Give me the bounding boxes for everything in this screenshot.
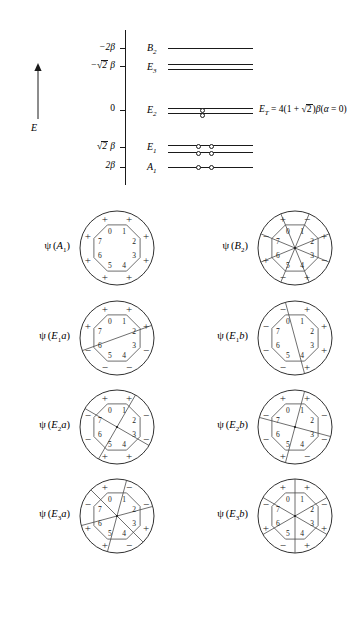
vertex-index-2: 2: [132, 237, 136, 246]
lobe-sign-4: +: [304, 539, 310, 551]
orbital-diagram-E1a: 01234567+++−−−−+: [72, 293, 162, 383]
energy-axis-label: E: [31, 122, 37, 133]
energy-level-diagram: −2β −√2 β 0 √2 β 2β E B2 E3 E2 E1: [0, 0, 355, 190]
lobe-sign-5: +: [102, 271, 108, 283]
orbital-svg-E3a: 01234567+−−+−++−: [72, 471, 162, 561]
level-label-B2: B2: [147, 42, 157, 56]
vertex-index-3: 3: [132, 430, 136, 439]
vertex-index-6: 6: [276, 341, 280, 350]
orbital-label-E2a: ψ (E2a): [14, 419, 70, 433]
vertex-index-6: 6: [276, 519, 280, 528]
vertex-index-6: 6: [98, 430, 102, 439]
lobe-sign-3: +: [143, 522, 149, 534]
vertex-index-6: 6: [276, 430, 280, 439]
vertex-index-4: 4: [300, 351, 304, 360]
vertex-index-4: 4: [122, 261, 126, 270]
vertex-index-0: 0: [286, 495, 290, 504]
orbital-svg-E1a: 01234567+++−−−−+: [72, 293, 162, 383]
lobe-sign-2: +: [143, 230, 149, 242]
orbital-svg-E2a: 01234567++−−++−−: [72, 382, 162, 472]
orbital-diagram-E3b: 01234567++−++−+−: [250, 471, 340, 561]
vertex-index-7: 7: [276, 416, 280, 425]
lobe-sign-2: +: [321, 230, 327, 242]
vertex-index-2: 2: [310, 505, 314, 514]
axis-tick-label-minus-sqrt2-beta: −√2 β: [55, 60, 115, 71]
vertex-index-7: 7: [98, 237, 102, 246]
vertex-index-1: 1: [122, 406, 126, 415]
vertex-index-7: 7: [98, 327, 102, 336]
vertex-index-4: 4: [300, 440, 304, 449]
vertex-index-0: 0: [108, 406, 112, 415]
lobe-sign-5: −: [280, 271, 286, 283]
lobe-sign-3: +: [321, 522, 327, 534]
vertex-index-1: 1: [300, 317, 304, 326]
vertex-index-2: 2: [310, 237, 314, 246]
lobe-sign-0: −: [280, 303, 286, 315]
lobe-sign-7: +: [85, 320, 91, 332]
lobe-sign-2: −: [321, 498, 327, 510]
orbital-label-E2b: ψ (E2b): [192, 419, 248, 433]
axis-tick-label-minus2beta: −2β: [60, 43, 115, 53]
orbital-label-A1: ψ (A1): [20, 240, 70, 254]
lobe-sign-4: +: [304, 271, 310, 283]
lobe-sign-6: +: [85, 522, 91, 534]
axis-tick-sqrt2-beta: [120, 147, 126, 148]
lobe-sign-5: +: [280, 450, 286, 462]
vertex-index-0: 0: [108, 495, 112, 504]
lobe-sign-2: +: [143, 320, 149, 332]
vertex-index-0: 0: [108, 317, 112, 326]
vertex-index-2: 2: [132, 416, 136, 425]
lobe-sign-5: +: [102, 539, 108, 551]
huckel-mo-figure: −2β −√2 β 0 √2 β 2β E B2 E3 E2 E1: [0, 0, 355, 623]
lobe-sign-7: −: [263, 498, 269, 510]
lobe-sign-7: −: [263, 409, 269, 421]
nodal-line-E1b-0: [285, 302, 304, 373]
vertex-index-6: 6: [98, 519, 102, 528]
lobe-sign-5: −: [280, 361, 286, 373]
vertex-index-5: 5: [108, 440, 112, 449]
lobe-sign-0: +: [102, 303, 108, 315]
lobe-sign-4: −: [126, 361, 132, 373]
orbital-diagram-E2b: 01234567++−−−+−−: [250, 382, 340, 472]
vertex-index-3: 3: [310, 430, 314, 439]
orbital-label-E3b: ψ (E3b): [192, 508, 248, 522]
energy-direction-arrow: [31, 62, 45, 120]
vertex-index-0: 0: [108, 227, 112, 236]
lobe-sign-2: +: [321, 320, 327, 332]
vertex-index-7: 7: [276, 237, 280, 246]
vertex-index-2: 2: [132, 327, 136, 336]
level-line-E2-a: [168, 108, 253, 109]
lobe-sign-3: −: [321, 254, 327, 266]
vertex-index-5: 5: [286, 351, 290, 360]
lobe-sign-7: −: [263, 230, 269, 242]
lobe-sign-0: +: [280, 213, 286, 225]
lobe-sign-2: −: [143, 498, 149, 510]
electron-E1-4: [209, 151, 214, 156]
axis-tick-label-2beta: 2β: [60, 161, 115, 171]
vertex-index-3: 3: [310, 519, 314, 528]
orbital-diagram-B2: 01234567+−+−+−+−: [250, 203, 340, 293]
vertex-index-2: 2: [132, 505, 136, 514]
vertex-index-5: 5: [286, 261, 290, 270]
lobe-sign-6: −: [85, 344, 91, 356]
electron-E1-1: [196, 144, 201, 149]
lobe-sign-1: −: [304, 213, 310, 225]
vertex-index-2: 2: [310, 327, 314, 336]
orbital-label-B2: ψ (B2): [198, 240, 248, 254]
vertex-index-3: 3: [310, 341, 314, 350]
orbital-svg-B2: 01234567+−+−+−+−: [250, 203, 340, 293]
vertex-index-3: 3: [132, 519, 136, 528]
lobe-sign-6: −: [263, 433, 269, 445]
lobe-sign-0: +: [102, 481, 108, 493]
vertex-index-6: 6: [98, 341, 102, 350]
level-line-E3-a: [168, 64, 253, 65]
orbital-label-E3a: ψ (E3a): [14, 508, 70, 522]
level-label-E3: E3: [147, 61, 157, 75]
axis-tick-minus-sqrt2-beta: [120, 66, 126, 67]
axis-tick-label-zero: 0: [60, 104, 115, 114]
lobe-sign-4: +: [304, 361, 310, 373]
lobe-sign-3: −: [321, 433, 327, 445]
vertex-index-3: 3: [132, 251, 136, 260]
orbital-svg-E1b: 01234567−++++−−−: [250, 293, 340, 383]
vertex-index-4: 4: [300, 529, 304, 538]
